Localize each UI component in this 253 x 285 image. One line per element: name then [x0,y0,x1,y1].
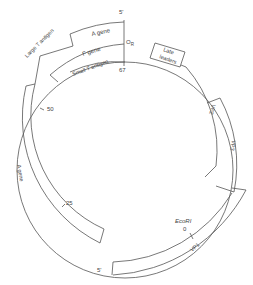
map-unit-67: 67 [119,67,126,73]
f-gene-label: F gene [82,46,102,57]
small-t-antigen-label: Small T antigen [71,58,109,77]
map-unit-0: 0 [183,226,187,232]
vp1-end-cap [112,262,113,275]
vp3-start-cap [207,98,220,103]
vp1-outer [113,190,246,275]
a-gene-top-end [70,34,73,46]
origin-label: OR [126,39,135,47]
large-t-antigen-label: Large T antigen [23,27,54,58]
a-gene-left-bottom-cap [100,229,104,243]
vp2-label: VP2 [208,104,216,116]
vp3-label: VP3 [229,140,237,151]
a-gene-left-inner [31,84,104,229]
five-prime-bottom-label: 5' [97,267,101,273]
map-unit-25: 25 [66,200,73,206]
a-gene-left-top-cap [26,84,35,86]
five-prime-top-label: 5' [119,9,123,15]
vp1-label: VP1 [189,241,201,252]
map-unit-50: 50 [47,106,54,112]
tick-50 [40,108,44,110]
vp1-inner [113,193,232,262]
a-gene-left-outer [22,86,100,243]
tick-25 [62,204,65,207]
f-gene-end [50,75,58,82]
a-gene-top-label: A gene [91,27,111,37]
genome-circle [17,62,233,278]
vp2-outer [186,67,217,166]
genome-map: 5' OR 67 50 25 0 EcoRI 5' A gene F gene … [0,0,253,285]
vp2-start-cap [181,65,186,67]
vp2-end-cap [205,166,216,177]
ecori-label: EcoRI [175,218,192,224]
